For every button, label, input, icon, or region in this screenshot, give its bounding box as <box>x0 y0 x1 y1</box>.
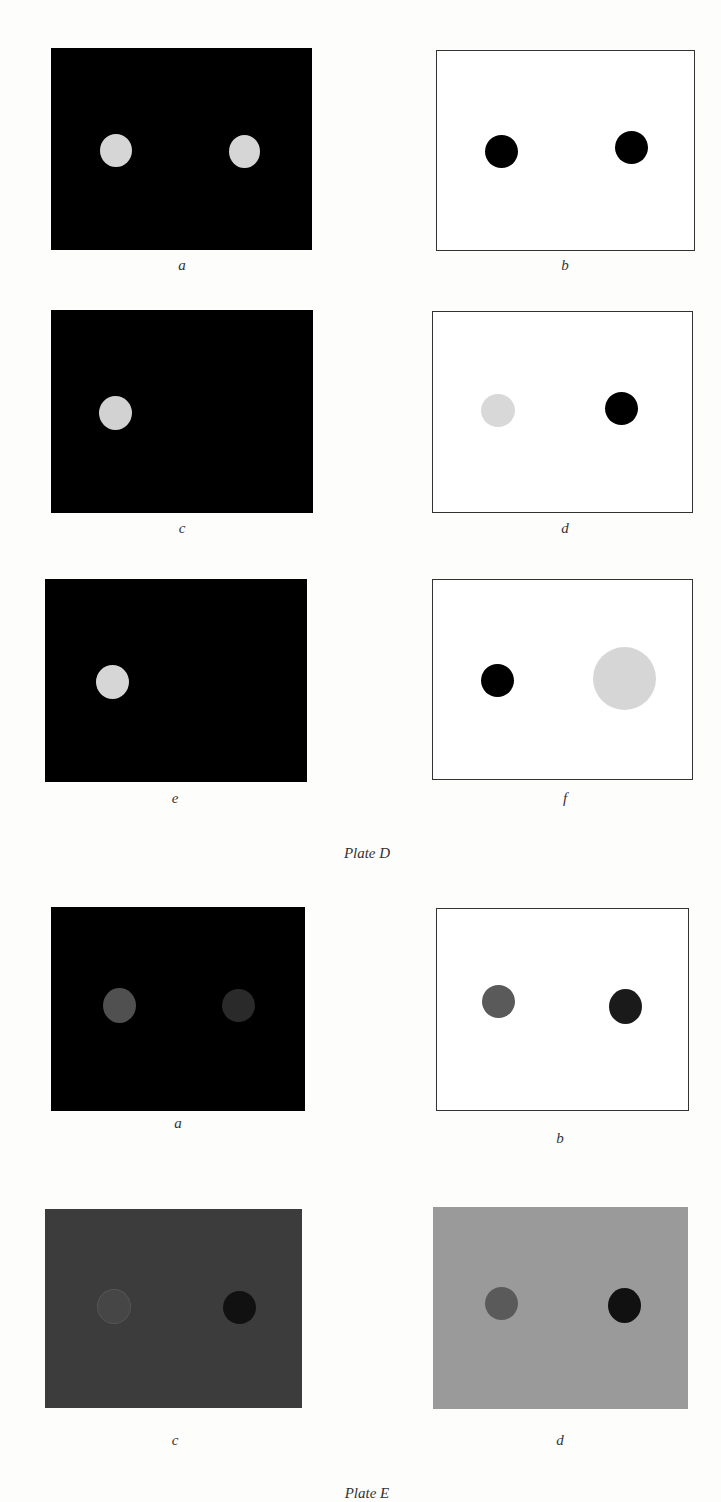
plate-e-panel-d <box>433 1207 688 1409</box>
dark-dot <box>223 1291 256 1324</box>
dark-dot <box>609 989 642 1024</box>
panel-label: d <box>545 520 585 537</box>
light-dot <box>229 135 260 168</box>
panel-label: a <box>158 1115 198 1132</box>
gray-dot <box>103 988 136 1023</box>
plate-d-panel-d <box>432 311 693 513</box>
plate-e-panel-b <box>436 908 689 1111</box>
light-dot <box>481 394 515 427</box>
dark-dot <box>485 135 518 168</box>
plate-d-caption: Plate D <box>267 845 467 862</box>
dim-dot <box>222 989 255 1022</box>
plate-d-panel-c <box>51 310 313 513</box>
gray-dot <box>482 985 515 1018</box>
gray-dot <box>485 1287 518 1320</box>
plate-e-caption: Plate E <box>267 1485 467 1502</box>
plate-d-panel-b <box>436 50 695 251</box>
large-light-dot <box>593 647 656 710</box>
gray-dot <box>97 1289 131 1324</box>
panel-label: b <box>540 1130 580 1147</box>
light-dot <box>100 134 132 167</box>
light-dot <box>96 665 129 699</box>
panel-label: d <box>540 1432 580 1449</box>
panel-label: a <box>162 257 202 274</box>
panel-label: e <box>155 790 195 807</box>
plate-d-panel-f <box>432 579 693 780</box>
plate-e-panel-c <box>45 1209 302 1408</box>
panel-label: b <box>545 257 585 274</box>
dark-dot <box>608 1288 641 1323</box>
dark-dot <box>481 664 514 697</box>
plate-d-panel-a <box>51 48 312 250</box>
plate-d-panel-e <box>45 579 307 782</box>
panel-label: c <box>162 520 202 537</box>
dark-dot <box>605 392 638 425</box>
panel-label: f <box>545 790 585 807</box>
panel-label: c <box>155 1432 195 1449</box>
dark-dot <box>615 131 648 164</box>
light-dot <box>99 396 132 430</box>
plate-e-panel-a <box>51 907 305 1111</box>
